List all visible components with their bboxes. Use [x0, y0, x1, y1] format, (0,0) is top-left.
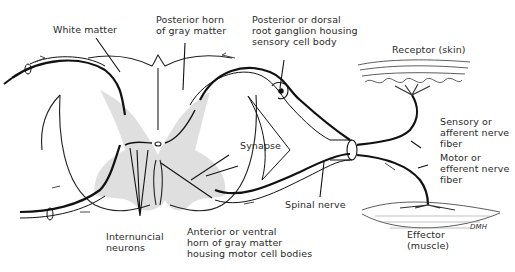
- label-anterior-horn: Anterior or ventral horn of gray matter …: [187, 226, 312, 259]
- receptor-skin: [358, 60, 470, 95]
- label-spinal-nerve: Spinal nerve: [285, 199, 346, 210]
- artist-signature: DMH: [470, 222, 487, 233]
- label-posterior-horn: Posterior horn of gray matter: [156, 14, 226, 36]
- label-white-matter: White matter: [53, 24, 117, 35]
- label-motor-fiber: Motor or efferent nerve fiber: [440, 152, 509, 185]
- motor-fiber: [357, 155, 428, 205]
- sensory-fiber: [357, 95, 417, 145]
- label-sensory-fiber: Sensory or afferent nerve fiber: [440, 116, 509, 149]
- label-dorsal-root-ganglion: Posterior or dorsal root ganglion housin…: [252, 14, 358, 47]
- label-receptor: Receptor (skin): [392, 44, 466, 55]
- label-effector: Effector (muscle): [407, 229, 449, 251]
- label-internuncial: Internuncial neurons: [106, 231, 164, 253]
- label-synapse: Synapse: [240, 140, 281, 151]
- gray-matter-shading: [95, 90, 226, 210]
